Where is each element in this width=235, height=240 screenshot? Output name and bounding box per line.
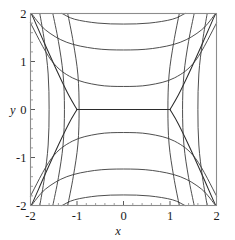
contour-left-branch-outer [40,14,49,206]
contour-separatrix-fork-upper-right [170,13,217,109]
contour-upper-branch-inner [31,23,217,86]
contour-curve-group [31,13,217,205]
contour-separatrix-fork-lower-right [170,110,217,206]
y-tick-label-0: -2 [16,199,26,213]
y-tick-label-1: -1 [16,151,26,165]
contour-plot-figure: -2-1012-2-1012 x y [0,0,235,240]
plot-canvas: -2-1012-2-1012 x y [0,0,235,240]
x-tick-label-0: -2 [25,209,35,223]
contour-right-branch-outer [198,14,207,206]
x-axis-title: x [114,224,121,238]
x-tick-label-1: -1 [72,209,82,223]
y-tick-label-2: 0 [20,103,26,117]
x-tick-label-4: 2 [213,209,219,223]
contour-right-branch-middle [183,14,195,206]
contour-separatrix-fork-lower-left [31,110,78,206]
contour-upper-branch-outer [62,14,185,25]
x-tick-label-3: 1 [167,209,173,223]
contour-left-branch-middle [53,14,65,206]
contour-lower-branch-inner [31,133,217,196]
x-tick-label-2: 0 [120,209,126,223]
y-tick-label-3: 1 [20,55,26,69]
y-tick-label-4: 2 [20,7,26,21]
y-axis-title: y [8,103,16,117]
contour-separatrix-fork-upper-left [31,13,78,109]
